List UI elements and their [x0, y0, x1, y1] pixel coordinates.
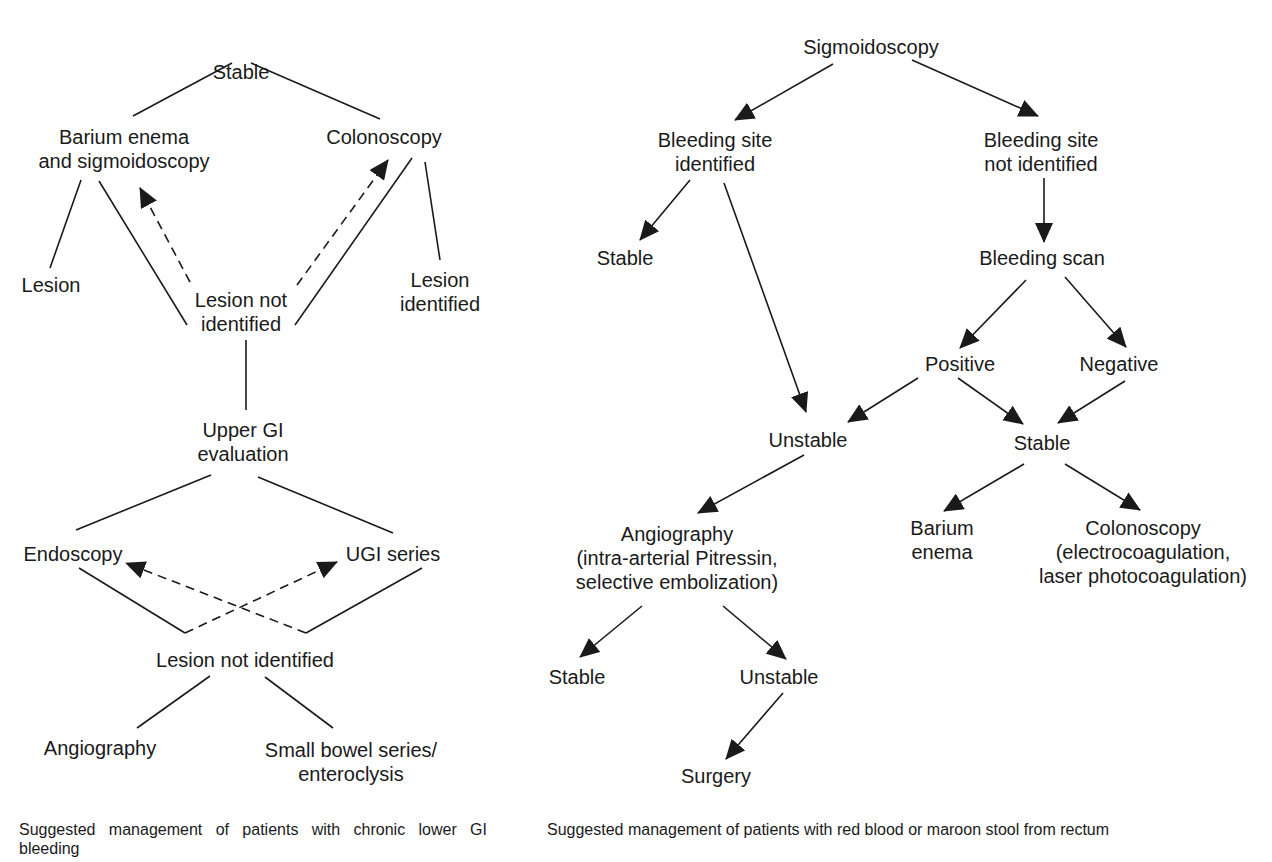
- node-lesion: Lesion: [22, 273, 81, 297]
- node-angiography-right: Angiography (intra-arterial Pitressin, s…: [576, 522, 778, 594]
- node-stable: Stable: [213, 60, 270, 84]
- left-caption: Suggested management of patients with ch…: [19, 820, 487, 858]
- edge-lesion-not-identified-2-to-small-bowel: [265, 677, 333, 728]
- edge-angiography-to-unstable: [723, 606, 786, 659]
- node-unstable-1: Unstable: [769, 428, 848, 452]
- node-lesion-not-identified: Lesion not identified: [195, 288, 287, 336]
- node-bleeding-scan: Bleeding scan: [979, 246, 1105, 270]
- node-surgery: Surgery: [681, 764, 751, 788]
- edge-colonoscopy-to-lesion-identified: [425, 162, 440, 260]
- node-colonoscopy-right: Colonoscopy (electrocoagulation, laser p…: [1039, 516, 1247, 588]
- dashed-edge-to-colonoscopy: [297, 160, 388, 285]
- node-stable-3: Stable: [549, 665, 606, 689]
- node-lesion-identified: Lesion identified: [400, 268, 480, 316]
- edge-ugi-series-to-lesion-not-identified-2: [306, 568, 422, 633]
- node-sigmoidoscopy: Sigmoidoscopy: [803, 35, 939, 59]
- node-stable-2: Stable: [1014, 431, 1071, 455]
- edge-sigmoidoscopy-to-site-not-identified: [912, 60, 1038, 116]
- node-colonoscopy: Colonoscopy: [326, 125, 442, 149]
- edge-sigmoidoscopy-to-site-identified: [735, 64, 833, 120]
- dashed-edge-to-endoscopy: [126, 563, 306, 633]
- right-caption: Suggested management of patients with re…: [547, 820, 1263, 839]
- edge-negative-to-stable: [1058, 381, 1125, 423]
- node-positive: Positive: [925, 352, 995, 376]
- edge-site-identified-to-unstable: [724, 183, 806, 412]
- edge-stable-to-colonoscopy: [251, 63, 380, 119]
- edge-unstable-to-angiography: [698, 455, 804, 513]
- edge-site-identified-to-stable: [640, 180, 690, 240]
- node-upper-gi-evaluation: Upper GI evaluation: [197, 418, 288, 466]
- node-angiography: Angiography: [44, 736, 156, 760]
- edge-lesion-not-identified-2-to-angiography: [137, 676, 210, 728]
- node-endoscopy: Endoscopy: [24, 542, 123, 566]
- dashed-edge-to-barium: [140, 188, 190, 282]
- node-bleeding-site-identified: Bleeding site identified: [658, 128, 773, 176]
- node-lesion-not-identified-2: Lesion not identified: [156, 648, 334, 672]
- edge-endoscopy-to-lesion-not-identified-2: [79, 568, 185, 633]
- edge-upper-gi-to-ugi-series: [258, 477, 393, 533]
- edge-stable-to-barium-enema: [944, 464, 1024, 511]
- edge-bleeding-scan-to-negative: [1065, 277, 1126, 347]
- node-small-bowel-series: Small bowel series/ enteroclysis: [265, 738, 437, 786]
- edge-bleeding-scan-to-positive: [960, 280, 1026, 348]
- dashed-edge-to-ugi-series: [185, 562, 337, 633]
- node-ugi-series: UGI series: [346, 542, 440, 566]
- edge-barium-to-lesion: [50, 180, 81, 268]
- node-barium-enema-sigmoidoscopy: Barium enema and sigmoidoscopy: [38, 125, 209, 173]
- node-unstable-2: Unstable: [740, 665, 819, 689]
- edge-upper-gi-to-endoscopy: [76, 475, 211, 530]
- edge-colonoscopy-to-lesion-not-identified: [295, 158, 412, 325]
- edge-stable-to-colonoscopy: [1065, 464, 1140, 510]
- edge-unstable-to-surgery: [726, 693, 783, 759]
- node-negative: Negative: [1080, 352, 1159, 376]
- node-bleeding-site-not-identified: Bleeding site not identified: [984, 128, 1099, 176]
- node-stable-1: Stable: [597, 246, 654, 270]
- edge-positive-to-unstable: [848, 378, 918, 422]
- node-barium-enema: Barium enema: [910, 516, 973, 564]
- edge-angiography-to-stable: [580, 606, 642, 657]
- edge-positive-to-stable: [958, 378, 1023, 424]
